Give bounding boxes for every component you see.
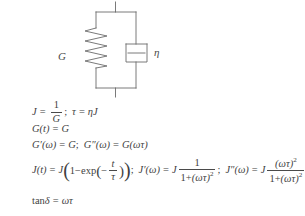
eq4-equals1: = [50, 164, 56, 175]
eq4-negsign: − [101, 165, 107, 176]
eq4-exp: exp [81, 165, 96, 176]
eq1-tau: τ [72, 106, 76, 117]
equation-dynamic-moduli: G′(ω)=G;G″(ω)=G(ωτ) [32, 140, 148, 151]
eq1-rhs2: ηJ [88, 106, 98, 117]
eq4-semicolon1: ; [131, 164, 134, 175]
eq3-equals2: = [113, 139, 119, 150]
equation-creep-and-dynamic-compliance: J(t)=J(1−exp(−tτ));J′(ω)=J11+(ωτ)2;J″(ω)… [32, 157, 305, 185]
eq5-delta: δ [45, 195, 50, 206]
eq2-arg: (t) [40, 123, 50, 134]
eq2-lhs: G [32, 123, 40, 134]
eq4-exp-den: τ [109, 171, 117, 183]
eq4-f2-den-pow: 2 [210, 170, 214, 178]
eq4-f2-den: 1+(ωτ)2 [179, 170, 216, 184]
eq4-f3-den-b: (ωτ) [281, 173, 299, 184]
eq4-open-paren: ( [63, 165, 70, 177]
eq4-coef2: J [172, 164, 177, 175]
eq4-semicolon2: ; [217, 164, 220, 175]
eq3-semicolon: ; [76, 139, 79, 150]
eq4-f3-den-pow: 2 [299, 171, 303, 179]
eq1-equals: = [40, 106, 46, 117]
equation-relaxation-modulus: G(t)=G [32, 124, 69, 135]
eq3-lhs2: G″(ω) [84, 139, 110, 150]
spring-icon [85, 28, 107, 68]
eq4-lhs3: J″(ω) [225, 164, 248, 175]
eq2-rhs: G [61, 123, 69, 134]
eq4-f3-num-b: (ωτ) [275, 158, 293, 169]
eq5-rhs: ωτ [62, 195, 73, 206]
eq5-equals: = [53, 195, 59, 206]
dashpot-label: η [154, 46, 159, 58]
equation-loss-tangent: tanδ=ωτ [32, 196, 73, 207]
eq4-lhs2: J′(ω) [139, 164, 160, 175]
eq4-close-paren: ) [124, 165, 131, 177]
figure-canvas: G η J=1G;τ=ηJ G(t)=G G′(ω)=G;G″(ω)=G(ωτ)… [0, 0, 305, 216]
eq4-coef3: J [261, 164, 266, 175]
eq4-f2-num: 1 [179, 157, 216, 170]
eq4-f3-num-pow: 2 [293, 156, 297, 164]
eq3-rhs2: G(ωτ) [122, 139, 148, 150]
eq4-exp-num: t [109, 158, 117, 171]
eq4-equals3: = [252, 164, 258, 175]
eq1-numerator: 1 [51, 99, 63, 112]
eq5-tan: tan [32, 195, 45, 206]
eq4-f2-den-b: (ωτ) [192, 172, 210, 183]
eq4-fraction3: (ωτ)21+(ωτ)2 [267, 156, 304, 184]
eq3-equals1: = [59, 139, 65, 150]
spring-label: G [58, 50, 66, 62]
eq3-lhs1: G′(ω) [32, 139, 56, 150]
eq4-equals2: = [163, 164, 169, 175]
eq2-equals: = [53, 123, 59, 134]
eq3-rhs1: G [68, 139, 76, 150]
eq4-f3-num: (ωτ)2 [267, 156, 304, 171]
eq4-exp-fraction: tτ [109, 158, 117, 183]
equation-compliance: J=1G;τ=ηJ [32, 100, 98, 125]
eq1-semicolon: ; [64, 106, 67, 117]
eq4-fraction2: 11+(ωτ)2 [179, 157, 216, 184]
eq4-arg1: (t) [37, 164, 47, 175]
eq1-fraction: 1G [51, 99, 63, 124]
kelvin-voigt-diagram [0, 0, 305, 100]
eq1-lhs: J [32, 106, 37, 117]
eq1-equals2: = [79, 106, 85, 117]
eq4-f3-den: 1+(ωτ)2 [267, 171, 304, 185]
